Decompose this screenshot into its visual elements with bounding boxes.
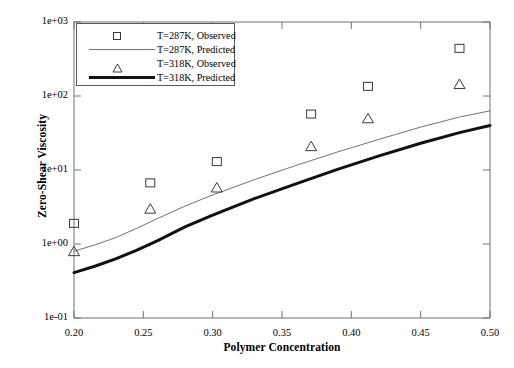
chart-legend: T=287K, ObservedT=287K, PredictedT=318K,… <box>76 23 235 86</box>
legend-entry: T=287K, Observed <box>77 29 234 43</box>
legend-key-triangle-marker <box>83 57 153 71</box>
data-point-square <box>455 44 464 52</box>
legend-entry-label: T=287K, Predicted <box>157 43 235 57</box>
data-point-triangle <box>454 79 465 89</box>
data-point-square <box>146 179 155 187</box>
x-tick-label: 0.35 <box>257 322 307 340</box>
legend-entry: T=318K, Predicted <box>77 71 234 85</box>
chart-figure: 1e-011e+001e+011e+021e+03 0.200.250.300.… <box>0 0 514 368</box>
series-lines-group <box>74 111 490 273</box>
y-axis-title: Zero-Shear Viscosity <box>36 46 48 286</box>
x-tick-label-text: 0.35 <box>273 327 291 338</box>
x-tick-label-text: 0.50 <box>481 327 499 338</box>
data-point-triangle <box>306 141 317 151</box>
x-tick-label: 0.30 <box>188 322 238 340</box>
x-tick-label: 0.45 <box>396 322 446 340</box>
x-tick-label: 0.50 <box>465 322 514 340</box>
data-point-triangle <box>362 113 373 123</box>
x-tick-label-text: 0.40 <box>342 327 360 338</box>
series-line <box>74 125 490 272</box>
x-tick-label-text: 0.25 <box>134 327 152 338</box>
legend-entry-label: T=318K, Predicted <box>157 71 235 85</box>
square-marker-icon <box>113 32 121 40</box>
thick-line-icon <box>89 76 155 79</box>
thin-line-icon <box>89 49 155 50</box>
legend-entry: T=318K, Observed <box>77 57 234 71</box>
x-axis-title: Polymer Concentration <box>74 341 490 353</box>
triangle-marker-icon <box>112 59 123 69</box>
legend-entry-label: T=287K, Observed <box>157 29 236 43</box>
legend-key-thick-line <box>83 71 153 85</box>
legend-key-square-marker <box>83 29 153 43</box>
data-point-square <box>307 110 316 118</box>
data-point-square <box>212 158 221 166</box>
legend-entry-label: T=318K, Observed <box>157 57 236 71</box>
series-line <box>74 111 490 251</box>
data-point-triangle <box>145 204 156 214</box>
x-tick-label-text: 0.45 <box>411 327 429 338</box>
y-tick-label-text: 1e+03 <box>24 15 68 26</box>
x-tick-label-text: 0.30 <box>203 327 221 338</box>
legend-entry: T=287K, Predicted <box>77 43 234 57</box>
y-tick-label-text: 1e-01 <box>24 311 68 322</box>
legend-key-thin-line <box>83 43 153 57</box>
x-tick-label-text: 0.20 <box>65 327 83 338</box>
x-tick-label: 0.20 <box>49 322 99 340</box>
data-point-triangle <box>211 183 222 193</box>
y-tick-label: 1e+03 <box>22 15 68 27</box>
x-tick-label: 0.40 <box>326 322 376 340</box>
x-tick-label: 0.25 <box>118 322 168 340</box>
data-point-square <box>363 82 372 90</box>
